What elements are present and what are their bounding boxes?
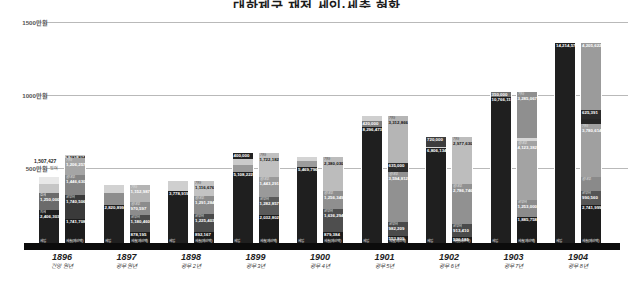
bar-revenue-1898[interactable]: 4,527,4763,778,919세입: [167, 180, 189, 244]
bar-segment[interactable]: 625,391: [581, 110, 601, 119]
bar-group-1896: 4,809,410호세1,250,000지세2,406,303세입6,316,8…: [38, 14, 86, 244]
bar-revenue-1901[interactable]: 9,079,456420,0008,296,473세입: [361, 115, 383, 244]
bar-segment[interactable]: 기타3,285,067: [517, 92, 537, 138]
bar-stack[interactable]: 4,525,530기타1,116,676궁내부1,291,284군부비1,225…: [193, 180, 215, 244]
bar-expenditure-1899[interactable]: 6,471,132기타1,722,182궁내부1,443,291군부비1,282…: [258, 152, 280, 244]
bar-segment[interactable]: 8,296,473: [362, 127, 382, 244]
segment-name: 기타: [130, 185, 150, 189]
x-label-1900: 1900광무 4년: [287, 252, 353, 270]
surplus-note-label-1896: 잉여: [50, 165, 58, 171]
bar-segment[interactable]: 궁내부1,291,284: [194, 196, 214, 214]
bar-revenue-1899[interactable]: 6,473,222400,0005,108,222세입: [232, 152, 254, 244]
bar-group-1904: 14,214,57314,214,573세입14,214,2984,205,62…: [554, 14, 602, 244]
bar-segment[interactable]: 군부비1,253,000: [517, 200, 537, 218]
bar-segment[interactable]: 기타1,722,182: [259, 153, 279, 177]
bar-segment[interactable]: 군부비1,225,403: [194, 214, 214, 231]
segment-value: 2,380,030: [323, 161, 343, 166]
bar-stack[interactable]: 14,214,2984,205,622625,391기타3,780,614궁내부…: [580, 42, 602, 244]
bar-stack[interactable]: 4,809,410호세1,250,000지세2,406,303세입: [38, 176, 60, 244]
bar-group-1899: 6,473,222400,0005,108,222세입6,471,132기타1,…: [232, 14, 280, 244]
bar-expenditure-1901[interactable]: 9,078,681기타3,312,866635,000궁내부3,594,812군…: [387, 115, 409, 244]
segment-value: 1,180,460: [130, 219, 150, 224]
segment-name: 군부비: [517, 200, 537, 204]
bar-revenue-1900[interactable]: 6,162,7965,469,796세입: [296, 156, 318, 244]
bar-expenditure-1897[interactable]: 4,190,427기타1,152,987궁내부970,597군부비1,180,4…: [129, 184, 151, 244]
bar-segment[interactable]: 궁내부3,594,812: [388, 172, 408, 223]
bar-stack[interactable]: 7,585,877기타2,977,630궁내부2,786,746군부비913,4…: [451, 136, 473, 244]
bar-segment[interactable]: 궁내부2,786,746: [452, 184, 472, 223]
bar-segment[interactable]: [233, 165, 253, 172]
bar-expenditure-1904[interactable]: 14,214,2984,205,622625,391기타3,780,614궁내부…: [580, 42, 602, 244]
segment-name: 궁내부: [194, 196, 214, 200]
bar-stack[interactable]: 10,766,115350,00010,766,115세입: [490, 91, 512, 244]
segment-value: 5,469,796: [297, 167, 317, 172]
bar-segment[interactable]: 군부비982,209: [388, 222, 408, 236]
segment-name: 궁내부: [259, 177, 279, 181]
bar-segment[interactable]: 635,000: [388, 163, 408, 172]
bar-segment[interactable]: 궁내부1,256,349: [323, 191, 343, 209]
bar-segment[interactable]: 기타3,312,866: [388, 116, 408, 163]
bar-stack[interactable]: 6,473,222400,0005,108,222세입: [232, 152, 254, 244]
bar-expenditure-1902[interactable]: 7,585,877기타2,977,630궁내부2,786,746군부비913,4…: [451, 136, 473, 244]
bar-expenditure-1903[interactable]: 10,765,491기타3,285,067궁내부4,123,382군부비1,25…: [516, 91, 538, 244]
bar-revenue-1897[interactable]: 4,191,1922,820,899세입: [103, 184, 125, 244]
bar-segment[interactable]: 기타3,780,614: [581, 124, 601, 178]
bar-segment[interactable]: 기타2,380,030: [323, 157, 343, 191]
bar-segment[interactable]: 궁내부1,443,291: [259, 177, 279, 197]
bar-segment[interactable]: 기타1,206,257: [65, 158, 85, 175]
bar-segment[interactable]: 5,469,796: [297, 167, 317, 244]
bar-segment[interactable]: 궁내부4,123,382: [517, 141, 537, 199]
bar-stack[interactable]: 9,079,456420,0008,296,473세입: [361, 115, 383, 244]
bar-segment[interactable]: [104, 193, 124, 204]
x-label-year: 1902: [416, 252, 482, 263]
bar-segment[interactable]: [39, 177, 59, 185]
segment-name: 기타: [581, 124, 601, 128]
bar-segment[interactable]: 군부비1,740,506: [65, 195, 85, 220]
bar-revenue-1902[interactable]: 7,586,530720,0006,806,134세입: [425, 136, 447, 244]
bar-stack[interactable]: 6,161,871기타2,380,030궁내부1,256,349군부비1,636…: [322, 156, 344, 244]
bar-segment[interactable]: 군부비1,180,460: [130, 215, 150, 232]
bar-segment[interactable]: [168, 181, 188, 191]
bar-stack[interactable]: 4,190,427기타1,152,987궁내부970,597군부비1,180,4…: [129, 184, 151, 244]
bar-stack[interactable]: 6,471,132기타1,722,182궁내부1,443,291군부비1,282…: [258, 152, 280, 244]
bar-segment[interactable]: 5,108,222: [233, 172, 253, 244]
bar-stack[interactable]: 4,527,4763,778,919세입: [167, 180, 189, 244]
bar-segment[interactable]: 군부비1,636,294: [323, 209, 343, 232]
bar-segment[interactable]: 군부비990,560: [581, 191, 601, 205]
bar-segment[interactable]: 기타1,152,987: [130, 185, 150, 201]
bar-stack[interactable]: 6,316,8312,181,894기타1,206,257궁내부1,446,63…: [64, 154, 86, 244]
bar-expenditure-1900[interactable]: 6,161,871기타2,380,030궁내부1,256,349군부비1,636…: [322, 156, 344, 244]
bar-segment[interactable]: 기타1,116,676: [194, 181, 214, 197]
bar-stack[interactable]: 7,586,530720,0006,806,134세입: [425, 136, 447, 244]
bar-expenditure-1898[interactable]: 4,525,530기타1,116,676궁내부1,291,284군부비1,225…: [193, 180, 215, 244]
bar-segment[interactable]: [39, 184, 59, 192]
bar-segment[interactable]: 10,766,115: [491, 97, 511, 244]
bar-segment[interactable]: [104, 185, 124, 193]
bar-segment[interactable]: 궁내부1,446,630: [65, 175, 85, 195]
bar-segment[interactable]: 14,214,573: [555, 43, 575, 244]
bar-stack[interactable]: 4,191,1922,820,899세입: [103, 184, 125, 244]
bar-segment[interactable]: 6,806,134: [426, 148, 446, 244]
bar-caption: 세출(예산액): [453, 238, 470, 243]
bar-segment[interactable]: 군부비1,282,857: [259, 197, 279, 215]
segment-name: 군부비: [65, 195, 85, 199]
bar-stack[interactable]: 14,214,57314,214,573세입: [554, 42, 576, 244]
segment-value: 3,780,614: [581, 128, 601, 133]
bar-stack[interactable]: 6,162,7965,469,796세입: [296, 156, 318, 244]
segment-name: 군부비: [194, 214, 214, 218]
bar-revenue-1903[interactable]: 10,766,115350,00010,766,115세입: [490, 91, 512, 244]
segment-name: 군부비: [388, 222, 408, 226]
bar-segment[interactable]: 3,778,919: [168, 191, 188, 244]
bar-segment[interactable]: 호세1,250,000: [39, 193, 59, 211]
bar-segment[interactable]: 군부비913,410: [452, 224, 472, 237]
bar-expenditure-1896[interactable]: 6,316,8312,181,894기타1,206,257궁내부1,446,63…: [64, 154, 86, 244]
bar-segment[interactable]: 궁내부970,597: [130, 202, 150, 216]
bar-segment[interactable]: 720,000: [426, 137, 446, 147]
bar-segment[interactable]: 4,205,622: [581, 43, 601, 110]
bar-stack[interactable]: 9,078,681기타3,312,866635,000궁내부3,594,812군…: [387, 115, 409, 244]
bar-segment[interactable]: 기타2,977,630: [452, 137, 472, 184]
bar-stack[interactable]: 10,765,491기타3,285,067궁내부4,123,382군부비1,25…: [516, 91, 538, 244]
bar-revenue-1896[interactable]: 4,809,410호세1,250,000지세2,406,303세입: [38, 176, 60, 244]
bar-revenue-1904[interactable]: 14,214,57314,214,573세입: [554, 42, 576, 244]
bar-segment[interactable]: 궁내부: [581, 177, 601, 191]
